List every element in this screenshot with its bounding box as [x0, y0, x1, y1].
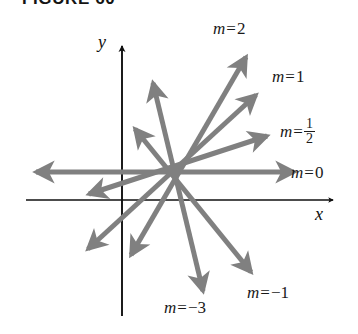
fraction-numerator: 1 — [304, 117, 315, 131]
label-slope-neg-1-value: −1 — [271, 283, 289, 302]
label-slope-neg-1-variable: m — [247, 283, 259, 302]
label-slope-1-equals: = — [284, 67, 296, 86]
fraction-one-half: 12 — [304, 117, 315, 147]
y-axis-label: y — [98, 33, 106, 51]
slope-line-m-neg3 — [153, 83, 203, 291]
label-slope-0-variable: m — [291, 163, 303, 182]
fraction-denominator: 2 — [304, 131, 315, 146]
label-slope-one-half: m=12 — [280, 117, 315, 147]
label-slope-2-variable: m — [213, 19, 225, 38]
label-slope-neg-1: m=−1 — [247, 284, 289, 301]
label-slope-neg-3-variable: m — [164, 298, 176, 317]
label-slope-one-half-variable: m — [280, 122, 292, 141]
label-slope-1-value: 1 — [296, 67, 305, 86]
label-slope-2: m=2 — [213, 20, 245, 37]
label-slope-neg-1-equals: = — [259, 283, 271, 302]
label-slope-1-variable: m — [272, 67, 284, 86]
slope-rays-group — [36, 57, 294, 291]
label-slope-0-value: 0 — [315, 163, 324, 182]
x-axis-label: x — [315, 205, 323, 223]
label-slope-one-half-equals: = — [292, 122, 304, 141]
label-slope-neg-3-value: −3 — [188, 298, 206, 317]
label-slope-1: m=1 — [272, 68, 304, 85]
label-slope-neg-3: m=−3 — [164, 299, 206, 316]
label-slope-0-equals: = — [303, 163, 315, 182]
label-slope-2-value: 2 — [237, 19, 246, 38]
label-slope-neg-3-equals: = — [176, 298, 188, 317]
label-slope-0: m=0 — [291, 164, 323, 181]
label-slope-2-equals: = — [225, 19, 237, 38]
figure-container: FIGURE 60 y x m=2 — [0, 0, 358, 334]
